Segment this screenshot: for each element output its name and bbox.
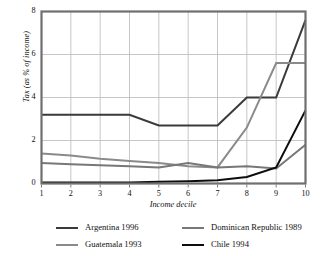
chart-legend: Argentina 1996 Guatemala 1993 Dominican … — [56, 219, 312, 253]
legend-label-chile: Chile 1994 — [211, 240, 249, 249]
legend-column-2: Dominican Republic 1989 Chile 1994 — [182, 219, 302, 253]
x-tick-label-7: 7 — [209, 190, 227, 198]
data-series-group — [42, 20, 306, 182]
x-tick-label-6: 6 — [179, 190, 197, 198]
x-tick-label-9: 9 — [267, 190, 285, 198]
chart-figure: Tax (as % of income) Income decile 86420… — [0, 0, 320, 256]
y-tick-label-2: 2 — [20, 136, 36, 144]
legend-item-chile: Chile 1994 — [182, 236, 302, 253]
legend-swatch-dominican-republic — [182, 227, 204, 229]
legend-swatch-argentina — [56, 227, 78, 229]
y-tick-label-6: 6 — [20, 50, 36, 58]
legend-item-guatemala: Guatemala 1993 — [56, 236, 142, 253]
x-tick-marks — [42, 185, 306, 188]
legend-column-1: Argentina 1996 Guatemala 1993 — [56, 219, 142, 253]
legend-swatch-chile — [182, 244, 204, 246]
legend-item-dominican-republic: Dominican Republic 1989 — [182, 219, 302, 236]
y-tick-label-0: 0 — [20, 179, 36, 187]
x-tick-label-5: 5 — [150, 190, 168, 198]
x-tick-label-1: 1 — [33, 190, 51, 198]
y-tick-label-4: 4 — [20, 93, 36, 101]
legend-swatch-guatemala — [56, 244, 78, 246]
x-tick-label-4: 4 — [121, 190, 139, 198]
x-tick-label-2: 2 — [62, 190, 80, 198]
series-line-chile-1994 — [42, 110, 306, 182]
plot-area — [0, 0, 320, 256]
x-tick-label-10: 10 — [297, 190, 315, 198]
x-tick-label-8: 8 — [238, 190, 256, 198]
legend-item-argentina: Argentina 1996 — [56, 219, 142, 236]
legend-label-argentina: Argentina 1996 — [85, 223, 139, 232]
series-line-argentina-1996 — [42, 20, 306, 125]
legend-label-dominican-republic: Dominican Republic 1989 — [211, 223, 302, 232]
x-tick-label-3: 3 — [91, 190, 109, 198]
legend-label-guatemala: Guatemala 1993 — [85, 240, 142, 249]
y-tick-label-8: 8 — [20, 7, 36, 15]
